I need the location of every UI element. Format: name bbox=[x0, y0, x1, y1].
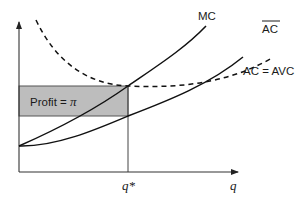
profit-label-text: Profit = bbox=[30, 96, 70, 108]
mc-label: MC bbox=[198, 10, 216, 22]
ac-avc-label: AC = AVC bbox=[243, 65, 294, 77]
ac-bar-label-group: AC bbox=[262, 21, 280, 35]
x-axis-label: q bbox=[230, 178, 237, 193]
svg-text:Profit = π: Profit = π bbox=[30, 94, 77, 109]
q-star-tick-label: q* bbox=[122, 178, 136, 193]
ac-bar-label: AC bbox=[262, 23, 278, 35]
profit-pi-symbol: π bbox=[70, 94, 77, 109]
cost-curves-diagram: MC AC AC = AVC Profit = π q* q bbox=[0, 0, 303, 198]
profit-label: Profit = π bbox=[30, 94, 77, 109]
ac-bar-curve bbox=[36, 20, 272, 86]
